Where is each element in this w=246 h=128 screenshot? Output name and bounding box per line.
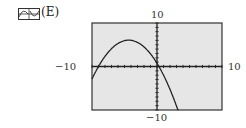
graph-window xyxy=(0,0,246,128)
